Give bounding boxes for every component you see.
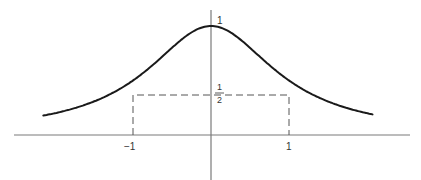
half-numerator: 1 bbox=[217, 82, 222, 92]
function-plot: 1 1 2 −1 1 bbox=[0, 0, 421, 180]
peak-label: 1 bbox=[217, 15, 223, 26]
half-denominator: 2 bbox=[217, 95, 222, 105]
x-tick-pos-one: 1 bbox=[286, 141, 292, 152]
bell-curve bbox=[43, 26, 372, 116]
half-label: 1 2 bbox=[215, 82, 224, 105]
x-tick-neg-one: −1 bbox=[124, 141, 136, 152]
